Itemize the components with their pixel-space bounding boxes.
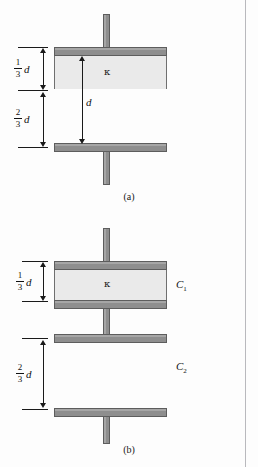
- fraction-numerator: 2: [18, 363, 23, 373]
- panel-b-kappa-symbol: κ: [104, 278, 110, 289]
- panel-b-top-lead: [103, 228, 110, 264]
- panel-b-caption: (b): [0, 444, 258, 455]
- panel-b-twothird-tick-bottom: [22, 409, 48, 410]
- panel-b-plate-3: [54, 334, 167, 343]
- panel-b-twothird-arrow-bottom: [40, 403, 46, 408]
- panel-b-label-c1: C1: [176, 278, 187, 293]
- panel-b-third-tick-bottom: [22, 301, 48, 302]
- panel-b-label-c2: C2: [176, 360, 187, 375]
- panel-b-middle-lead: [103, 308, 110, 336]
- fraction-numerator: 1: [18, 271, 23, 281]
- panel-b-dimension-one-third: 1 3 d: [16, 271, 32, 292]
- panel-b-plate-1: [54, 261, 167, 270]
- capacitor-label-sub: 2: [183, 367, 187, 375]
- panel-b-plate-4: [54, 408, 167, 417]
- fraction-denominator: 3: [18, 374, 23, 384]
- panel-b-dimension-two-thirds: 2 3 d: [16, 363, 32, 384]
- panel-b-third-line: [43, 264, 44, 297]
- panel-b-twothird-tick-top: [22, 338, 48, 339]
- fraction-symbol: d: [26, 368, 32, 380]
- panel-b: κ C1 C2 1 3 d: [0, 0, 258, 467]
- fraction-denominator: 3: [18, 282, 23, 292]
- panel-b-plate-2: [54, 300, 167, 309]
- figure-canvas: κ d 1 3 d 2: [0, 0, 258, 467]
- panel-b-bottom-lead: [103, 416, 110, 444]
- panel-b-dielectric-slab: [54, 270, 167, 300]
- fraction-symbol: d: [26, 276, 32, 288]
- panel-b-twothird-line: [43, 342, 44, 404]
- capacitor-label-sub: 1: [183, 285, 187, 293]
